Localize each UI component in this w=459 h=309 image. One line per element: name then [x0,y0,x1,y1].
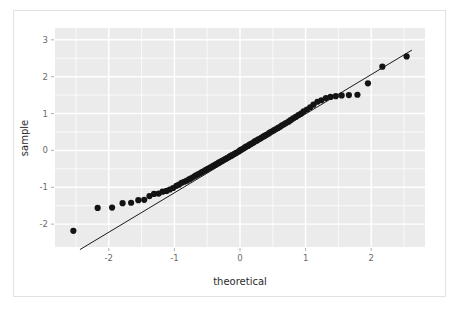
data-point [354,92,360,98]
data-point [135,197,141,203]
y-tick-label: 3 [43,35,48,45]
data-point [365,80,371,86]
y-tick-label: -1 [40,182,48,192]
data-point [109,204,115,210]
data-point [141,197,147,203]
data-point [95,205,101,211]
y-tick-label: 1 [43,109,48,119]
data-point [119,200,125,206]
x-tick-label: -2 [105,253,113,263]
qq-plot-figure: -2-1012 -2-10123 theoretical sample [0,0,459,309]
qq-plot-canvas: -2-1012 -2-10123 theoretical sample [0,0,459,309]
data-point [70,228,76,234]
x-tick-label: 1 [303,253,308,263]
x-axis-ticks: -2-1012 [105,248,374,263]
data-point [327,94,333,100]
y-axis-title: sample [19,120,30,156]
data-point [128,200,134,206]
data-point [379,64,385,70]
x-tick-label: 2 [368,253,373,263]
x-axis-title: theoretical [213,276,267,287]
y-tick-label: 0 [43,145,48,155]
y-tick-label: 2 [43,72,48,82]
x-tick-label: 0 [237,253,242,263]
data-point [339,92,345,98]
data-point [333,93,339,99]
data-point [346,92,352,98]
y-tick-label: -2 [40,219,48,229]
y-axis-ticks: -2-10123 [40,35,54,229]
x-tick-label: -1 [170,253,178,263]
data-point [404,53,410,59]
